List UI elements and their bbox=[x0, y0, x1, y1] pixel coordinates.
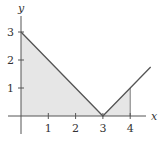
x-tick-label: 3 bbox=[99, 122, 106, 135]
y-tick-label: 3 bbox=[7, 26, 14, 39]
y-tick-label: 1 bbox=[7, 82, 14, 95]
plot-area: 1234 123 x y bbox=[0, 0, 159, 162]
x-tick-label: 1 bbox=[45, 122, 52, 135]
y-axis-label: y bbox=[17, 2, 25, 15]
x-tick-label: 2 bbox=[72, 122, 79, 135]
y-tick-label: 2 bbox=[7, 54, 14, 67]
x-axis-label: x bbox=[151, 110, 158, 123]
shaded-region bbox=[21, 32, 130, 116]
x-tick-label: 4 bbox=[127, 122, 134, 135]
